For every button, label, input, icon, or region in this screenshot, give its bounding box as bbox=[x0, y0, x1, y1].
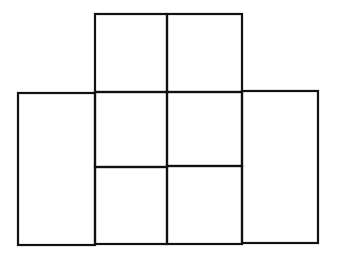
mid-left-upper bbox=[95, 92, 167, 167]
rectangle-group bbox=[18, 14, 318, 245]
mid-right-upper bbox=[167, 92, 242, 166]
left-tall-cell bbox=[18, 93, 95, 245]
mid-left-lower bbox=[95, 167, 167, 244]
rectangle-grid-diagram bbox=[0, 0, 338, 260]
mid-right-lower bbox=[167, 166, 242, 244]
right-tall-cell bbox=[242, 91, 318, 243]
top-left-cell bbox=[95, 14, 167, 92]
top-right-cell bbox=[167, 14, 242, 92]
